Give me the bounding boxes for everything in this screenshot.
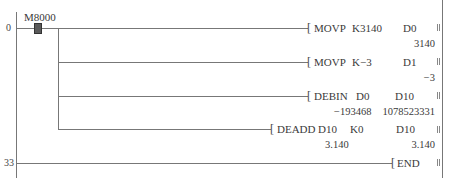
contact-label: M8000: [24, 11, 56, 23]
instruction-1-op1: K3140: [352, 22, 382, 34]
rung-2-wire: [58, 62, 308, 63]
rung-0-left-segment: [16, 28, 34, 29]
instruction-3-op1: D0: [356, 90, 369, 102]
instruction-bracket-open: [: [391, 157, 395, 169]
instruction-1-mnemonic[interactable]: MOVP: [314, 22, 346, 34]
step-number-0: 0: [6, 23, 11, 33]
instruction-3-end-bracket-icon: [437, 92, 440, 99]
instruction-bracket-open: [: [307, 22, 311, 34]
end-instruction-bracket-icon: [437, 159, 440, 166]
end-instruction[interactable]: END: [397, 157, 420, 169]
instruction-2-mnemonic[interactable]: MOVP: [314, 56, 346, 68]
instruction-bracket-open: [: [307, 90, 311, 102]
instruction-1-end-bracket-icon: [437, 24, 440, 31]
rung-3-wire: [58, 96, 308, 97]
rung-1-wire: [58, 28, 308, 29]
instruction-4-op1: D10: [318, 123, 337, 135]
instruction-4-mnemonic[interactable]: DEADD: [277, 123, 316, 135]
instruction-3-dest-value: 1078523331: [383, 106, 436, 117]
branch-vertical-line: [58, 28, 59, 130]
instruction-3-op2: D10: [395, 90, 414, 102]
instruction-4-dest-value: 3.140: [411, 139, 435, 150]
instruction-bracket-open: [: [307, 56, 311, 68]
end-rung-wire: [16, 163, 392, 164]
instruction-1-dest-value: 3140: [414, 38, 435, 49]
rung-0-after-contact: [42, 28, 58, 29]
instruction-4-end-bracket-icon: [437, 126, 440, 133]
instruction-4-op3: D10: [396, 123, 415, 135]
instruction-2-op1: K−3: [352, 56, 372, 68]
right-power-rail: [442, 0, 443, 178]
instruction-2-op2: D1: [403, 56, 416, 68]
step-number-33: 33: [4, 158, 14, 168]
instruction-2-end-bracket-icon: [437, 58, 440, 65]
instruction-3-mnemonic[interactable]: DEBIN: [314, 90, 348, 102]
rung-4-wire: [58, 129, 271, 130]
instruction-4-op2: K0: [350, 123, 363, 135]
contact-m8000-icon[interactable]: [34, 23, 42, 34]
instruction-4-src-value: 3.140: [325, 139, 349, 150]
instruction-3-src-value: −193468: [334, 106, 371, 117]
instruction-2-dest-value: −3: [424, 72, 435, 83]
instruction-1-op2: D0: [403, 22, 416, 34]
instruction-bracket-open: [: [270, 123, 274, 135]
left-power-rail: [16, 12, 17, 178]
